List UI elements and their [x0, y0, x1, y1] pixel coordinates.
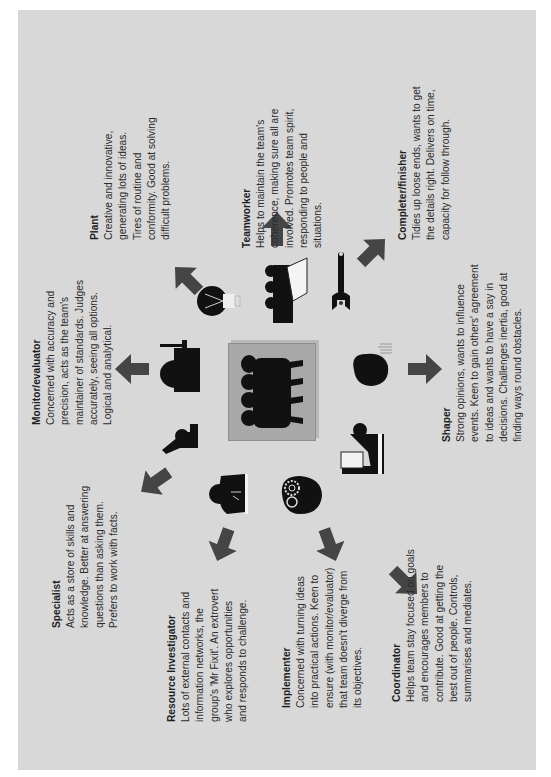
arrow-to-monitor-evaluator [115, 354, 149, 384]
team-group-icon [229, 344, 315, 440]
head-with-gears-icon [278, 472, 324, 516]
role-title: Coordinator [390, 512, 404, 702]
role-description: Tidies up loose ends, wants to get the d… [410, 55, 453, 240]
role-shaper: Shaper Strong opinions, wants to influen… [440, 222, 525, 442]
role-description: Concerned with turning ideas into practi… [294, 548, 365, 708]
wrench-icon [330, 248, 352, 316]
role-description: Lots of external contacts and informatio… [179, 562, 250, 722]
role-title: Specialist [50, 468, 64, 628]
role-completer-finisher: Completer/finisher Tidies up loose ends,… [396, 55, 453, 240]
role-description: Creative and innovative, generating lots… [102, 90, 173, 240]
role-title: Shaper [440, 222, 454, 442]
role-monitor-evaluator: Monitor/evaluator Concerned with accurac… [30, 255, 115, 425]
role-title: Plant [88, 90, 102, 240]
role-coordinator: Coordinator Helps team stay focused on g… [390, 512, 475, 702]
role-description: Helps to maintain the team's coherence, … [254, 63, 325, 248]
role-description: Acts as a store of skills and knowledge.… [64, 468, 121, 628]
role-description: Concerned with accuracy and precision, a… [44, 255, 115, 425]
role-implementer: Implementer Concerned with turning ideas… [280, 548, 365, 708]
role-title: Teamworker [240, 63, 254, 248]
arrow-to-shaper [408, 354, 442, 384]
role-plant: Plant Creative and innovative, generatin… [88, 90, 173, 240]
role-resource-investigator: Resource Investigator Lots of external c… [165, 562, 250, 722]
person-at-desk-phone-icon [207, 466, 251, 516]
judge-with-gavel-icon [158, 340, 202, 392]
center-team-box [228, 343, 316, 441]
role-title: Monitor/evaluator [30, 255, 44, 425]
role-title: Resource Investigator [165, 562, 179, 722]
role-description: Helps team stay focused on goals and enc… [404, 512, 475, 702]
group-at-flipchart-icon [263, 253, 311, 323]
role-description: Strong opinions, wants to influence even… [454, 222, 525, 442]
role-title: Completer/finisher [396, 55, 410, 240]
person-with-microscope-icon [156, 420, 202, 456]
presenter-at-board-icon [338, 422, 386, 478]
role-specialist: Specialist Acts as a store of skills and… [50, 468, 121, 628]
role-teamworker: Teamworker Helps to maintain the team's … [240, 63, 325, 248]
role-title: Implementer [280, 548, 294, 708]
head-with-signal-icon [350, 340, 394, 388]
